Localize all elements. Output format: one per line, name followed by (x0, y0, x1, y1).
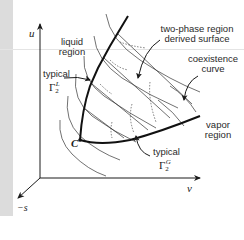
s-axis (18, 178, 40, 198)
v-axis-label: v (187, 183, 192, 193)
vapor-region-label: vapor region (200, 120, 236, 140)
typical-gamma-L-label: typical Γ2L (43, 69, 70, 96)
gamma-G-symbol: Γ2G (159, 157, 180, 174)
typical-gamma-G-label: typical Γ2G (153, 147, 180, 174)
gamma-G-pointer (136, 136, 150, 156)
tie-lines (84, 34, 192, 138)
gamma-L-symbol: Γ2L (49, 79, 70, 96)
s-axis-label: −s (17, 203, 28, 213)
coexistence-curve-label: coexistence curve (184, 54, 242, 74)
critical-point-label: C (71, 138, 78, 148)
critical-point-marker (78, 138, 82, 142)
two-phase-pointer (138, 40, 160, 78)
u-axis-label: u (29, 28, 35, 38)
liquid-region-label: liquid region (52, 37, 92, 57)
two-phase-region-label: two-phase region derived surface (156, 24, 238, 44)
